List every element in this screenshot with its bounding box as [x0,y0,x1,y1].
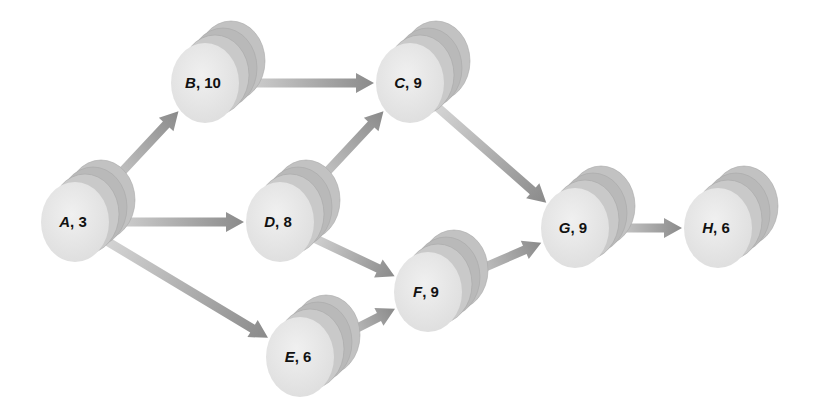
node-duration: , 10 [196,74,221,91]
node-label: G, 9 [559,219,587,236]
node-letter: G [559,219,571,236]
network-diagram: A, 3B, 10C, 9D, 8E, 6F, 9G, 9H, 6 [0,0,835,408]
node-label: E, 6 [285,348,312,365]
node-letter: D [264,213,275,230]
node-label: B, 10 [185,74,221,91]
node-duration: , 9 [405,74,422,91]
node-E[interactable]: E, 6 [266,295,360,397]
edge-A-E [97,230,273,347]
node-duration: , 6 [713,219,730,236]
node-label: A, 3 [58,213,87,230]
node-G[interactable]: G, 9 [541,166,635,268]
arrow-icon [97,230,273,347]
node-duration: , 3 [70,213,87,230]
node-label: D, 8 [264,213,292,230]
node-letter: A [58,213,70,230]
edge-C-G [428,97,553,210]
nodes-layer: A, 3B, 10C, 9D, 8E, 6F, 9G, 9H, 6 [41,21,778,397]
node-B[interactable]: B, 10 [171,21,265,123]
node-duration: , 9 [570,219,587,236]
node-F[interactable]: F, 9 [394,230,488,332]
node-label: F, 9 [413,283,439,300]
node-letter: B [185,74,196,91]
node-label: H, 6 [702,219,730,236]
node-duration: , 6 [295,348,312,365]
node-duration: , 8 [275,213,292,230]
arrow-icon [428,97,553,210]
node-label: C, 9 [394,74,422,91]
node-H[interactable]: H, 6 [684,166,778,268]
node-C[interactable]: C, 9 [376,21,470,123]
node-duration: , 9 [422,283,439,300]
